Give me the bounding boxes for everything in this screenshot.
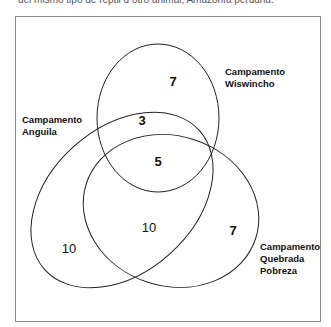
label-anguila-line2: Anguila [22,126,58,137]
label-quebrada-line3: Pobreza [260,265,298,276]
value-anguila-only: 10 [62,241,76,256]
value-all-three: 5 [154,154,161,169]
venn-diagram: 7 3 5 10 7 10 Campamento Wiswincho Campa… [0,0,331,327]
value-wiswincho-only: 7 [169,74,176,89]
label-anguila-line1: Campamento [22,114,82,125]
label-wiswincho-line2: Wiswincho [225,78,275,89]
value-anguila-quebrada: 10 [142,220,156,235]
set-quebrada-ellipse [63,112,279,310]
value-quebrada-only: 7 [229,223,236,238]
label-wiswincho-line1: Campamento [225,66,285,77]
label-quebrada-line1: Campamento [260,241,320,252]
value-wiswincho-anguila: 3 [138,113,145,128]
set-wiswincho-ellipse [97,44,219,192]
label-quebrada-line2: Quebrada [260,253,305,264]
